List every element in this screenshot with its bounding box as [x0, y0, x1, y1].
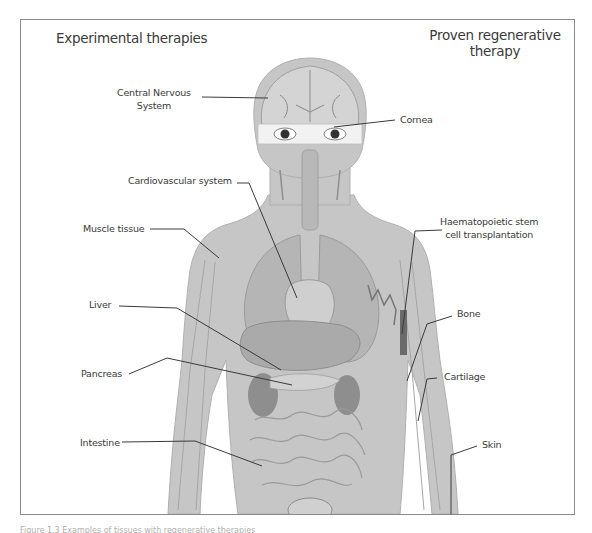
human-body-diagram [0, 0, 592, 533]
liver-icon [240, 321, 360, 371]
heading-right-line2: therapy [420, 43, 570, 59]
figure-caption: Figure 1.3 Examples of tissues with rege… [20, 524, 255, 533]
heading-proven-regenerative-therapy: Proven regenerative therapy [420, 27, 570, 59]
label-intestine: Intestine [80, 436, 120, 449]
label-haematopoietic-stem-cell-transplantation: Haematopoietic stem cell transplantation [440, 215, 538, 241]
heading-experimental-therapies: Experimental therapies [56, 30, 207, 46]
label-bone: Bone [457, 307, 480, 320]
label-cardiovascular-system: Cardiovascular system [128, 174, 232, 187]
heading-right-line1: Proven regenerative [420, 27, 570, 43]
label-skin: Skin [482, 438, 501, 451]
label-cns-line2: System [117, 99, 191, 112]
pelvis-icon [288, 498, 332, 522]
label-cns-line1: Central Nervous [117, 86, 191, 99]
label-cartilage: Cartilage [444, 370, 485, 383]
label-hsct-line1: Haematopoietic stem [440, 215, 538, 228]
label-muscle-tissue: Muscle tissue [83, 222, 144, 235]
eyes-icon [258, 124, 362, 144]
label-cornea: Cornea [400, 113, 433, 126]
label-pancreas: Pancreas [81, 367, 122, 380]
bone-marrow-icon [400, 310, 407, 355]
label-hsct-line2: cell transplantation [440, 228, 538, 241]
trachea-icon [302, 150, 318, 230]
label-central-nervous-system: Central Nervous System [117, 86, 191, 112]
label-liver: Liver [89, 298, 111, 311]
